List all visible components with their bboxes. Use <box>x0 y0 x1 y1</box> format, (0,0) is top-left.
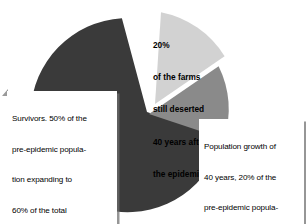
pie-chart-figure: 20% of the farms still deserted 40 years… <box>0 0 306 224</box>
callout-line: Population growth of <box>204 142 300 152</box>
callout-line: 20% <box>153 40 245 51</box>
callout-population-growth: Population growth of 40 years, 20% of th… <box>199 119 304 224</box>
callout-line: still deserted <box>153 104 245 115</box>
callout-line: pre-epidemic popula- <box>204 203 300 213</box>
callout-line: pre-epidemic popula- <box>12 145 113 155</box>
callout-line: tion expanding to <box>12 175 113 185</box>
callout-survivors: Survivors. 50% of the pre-epidemic popul… <box>7 91 117 224</box>
callout-line: Survivors. 50% of the <box>12 114 113 124</box>
callout-line: of the farms <box>153 72 245 83</box>
callout-line: 60% of the total <box>12 206 113 216</box>
callout-line: 40 years, 20% of the <box>204 173 300 183</box>
